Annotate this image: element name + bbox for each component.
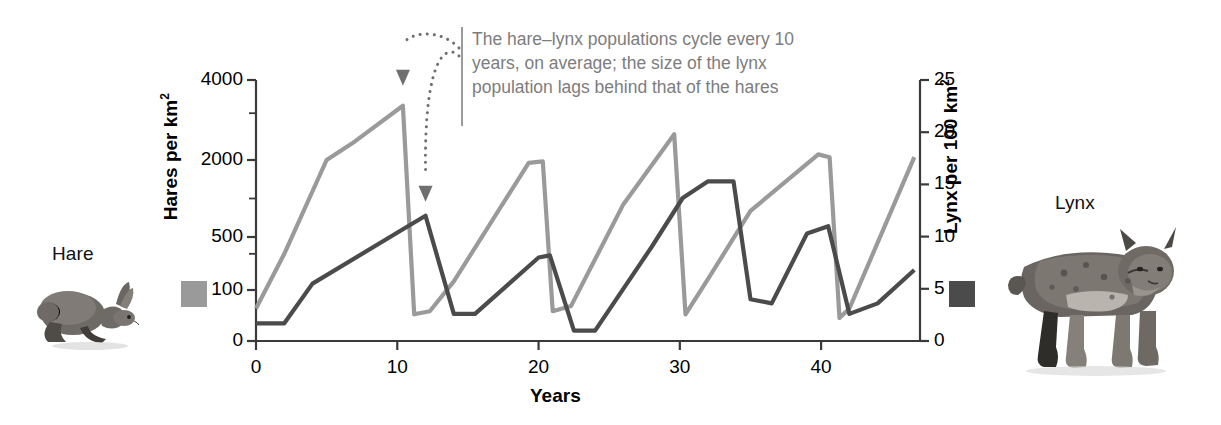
axes-group [247,80,929,350]
series-line-lynx [256,181,914,330]
figure-root: Hare Lynx [0,0,1221,425]
annotation-arrow-lynx-head [419,186,433,202]
annotation-arrow-hare-head [396,70,410,86]
series-line-hare [256,106,914,318]
annotation-arrow-hare-curve [403,34,459,48]
annotation-arrow-lynx-curve [425,52,459,172]
series-group [256,106,914,331]
annotation-rule [461,27,463,126]
annotation-text: The hare–lynx populations cycle every 10… [472,27,817,99]
